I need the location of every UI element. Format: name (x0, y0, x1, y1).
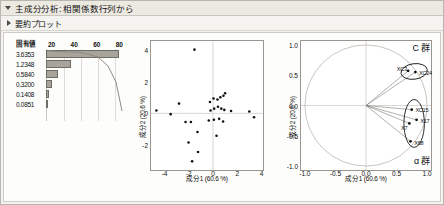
score-point (191, 160, 194, 163)
loading-ylabel: 成分2 (20.6 %) (287, 96, 297, 138)
scree-bar (46, 80, 52, 88)
score-point (220, 107, 223, 110)
scree-body: 3.6353 1.2348 0.5840 0.3200 0.1408 (16, 49, 124, 121)
variable-label: XC15 (415, 107, 428, 113)
score-point (212, 97, 215, 100)
loading-point (408, 122, 411, 125)
pca-summary-window: 主成分分析: 相関係数行列から 要約プロット 固有値 20 40 60 80 (0, 0, 444, 205)
score-ytick: 2 (130, 78, 148, 85)
score-point (184, 121, 187, 124)
loading-point (415, 118, 418, 121)
eigenvalue-cell: 0.0851 (16, 101, 46, 108)
scree-bar (46, 90, 49, 98)
score-point (230, 110, 233, 113)
loading-plot-frame (300, 40, 432, 171)
loading-ytick: 1.0 (280, 41, 298, 48)
loading-plot-canvas (301, 41, 431, 170)
scree-tick-1: 40 (71, 41, 78, 48)
triangle-right-icon[interactable] (7, 20, 11, 26)
triangle-down-icon[interactable] (5, 6, 11, 10)
score-ytick: -2 (130, 142, 148, 149)
scree-bar (46, 50, 119, 58)
variable-label: XC3 (397, 66, 407, 72)
cluster-label-alpha: α 群 (414, 154, 430, 167)
loading-point (410, 108, 413, 111)
score-point (248, 110, 251, 113)
scree-row: 0.3200 (16, 79, 124, 89)
scree-row: 1.2348 (16, 59, 124, 69)
panel-header-secondary-label: 要約プロット (15, 18, 62, 29)
scree-row: 0.5840 (16, 69, 124, 79)
score-point (193, 48, 196, 51)
score-point (213, 107, 216, 110)
eigenvalue-cell: 3.6353 (16, 51, 46, 58)
score-ytick: 4 (130, 46, 148, 53)
scree-bar (46, 60, 71, 68)
loading-ytick: -1.0 (280, 163, 298, 170)
eigenvalue-column-header: 固有値 (16, 38, 46, 48)
score-point (222, 120, 225, 123)
loading-point (407, 69, 410, 72)
eigenvalue-cell: 1.2348 (16, 61, 46, 68)
score-axes (151, 41, 263, 170)
score-xlabel: 成分1 (60.6 %) (150, 173, 264, 183)
score-point (209, 109, 212, 112)
score-point (219, 96, 222, 99)
loading-point (409, 140, 412, 143)
score-point (196, 131, 199, 134)
score-point (253, 116, 256, 119)
scree-plot: 固有値 20 40 60 80 3.6353 (16, 39, 124, 121)
eigenvalue-cell: 0.3200 (16, 81, 46, 88)
score-point (215, 134, 218, 137)
score-point (187, 141, 190, 144)
score-point (208, 119, 211, 122)
loading-vector (366, 72, 415, 105)
score-point (155, 109, 158, 112)
scree-header-row: 固有値 20 40 60 80 (16, 39, 124, 48)
score-points (155, 48, 255, 162)
score-point (213, 118, 216, 121)
variable-label: X17 (420, 118, 429, 124)
loading-vectors (366, 71, 417, 141)
score-point (209, 101, 212, 104)
variable-label: X68 (414, 140, 423, 146)
score-plot-canvas (151, 41, 263, 170)
score-point (218, 118, 221, 121)
scree-bar (46, 70, 58, 78)
score-point (216, 98, 219, 101)
score-point (224, 92, 227, 95)
loading-vector (366, 106, 409, 124)
score-point (190, 121, 193, 124)
summary-plot-panel: 固有値 20 40 60 80 3.6353 (3, 32, 441, 202)
cluster-label-c: C 群 (413, 41, 430, 54)
score-plot: -4-2024-2024 成分1 (60.6 %) 成分2 (20.6 %) (122, 37, 270, 197)
score-point (222, 94, 225, 97)
panel-header-primary-label: 主成分分析: 相関係数行列から (15, 2, 134, 14)
scree-tick-0: 20 (48, 41, 55, 48)
score-point (169, 113, 172, 116)
score-point (178, 102, 181, 105)
eigenvalue-cell: 0.5840 (16, 71, 46, 78)
loading-point (414, 71, 417, 74)
variable-label: X7 (401, 125, 407, 131)
eigenvalue-cell: 0.1408 (16, 91, 46, 98)
loading-ytick: 0.5 (280, 72, 298, 79)
panel-header-secondary[interactable]: 要約プロット (1, 16, 443, 31)
score-point (217, 105, 220, 108)
scree-tick-2: 60 (93, 41, 100, 48)
loading-plot: -1.0-0.50.00.51.0-1.0-0.50.00.51.0 XC3XC… (272, 37, 438, 197)
score-plot-frame (150, 40, 264, 171)
score-ylabel: 成分2 (20.6 %) (137, 96, 147, 138)
score-point (223, 109, 226, 112)
scree-row: 0.0851 (16, 99, 124, 109)
scree-row: 3.6353 (16, 49, 124, 59)
panel-header-primary[interactable]: 主成分分析: 相関係数行列から (1, 1, 443, 16)
scree-row: 0.1408 (16, 89, 124, 99)
loading-xlabel: 成分1 (60.6 %) (300, 173, 432, 183)
scree-axis-ticks: 20 40 60 80 (46, 41, 124, 48)
variable-label: XC24 (419, 70, 432, 76)
score-point (197, 151, 200, 154)
scree-bar (46, 100, 48, 108)
